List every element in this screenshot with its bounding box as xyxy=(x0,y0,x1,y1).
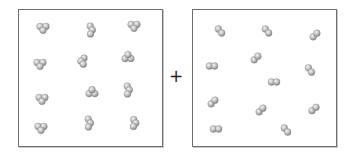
reactant-box-diatomic xyxy=(192,9,337,147)
plus-sign: + xyxy=(169,66,183,86)
reactant-box-triatomic xyxy=(18,9,163,147)
